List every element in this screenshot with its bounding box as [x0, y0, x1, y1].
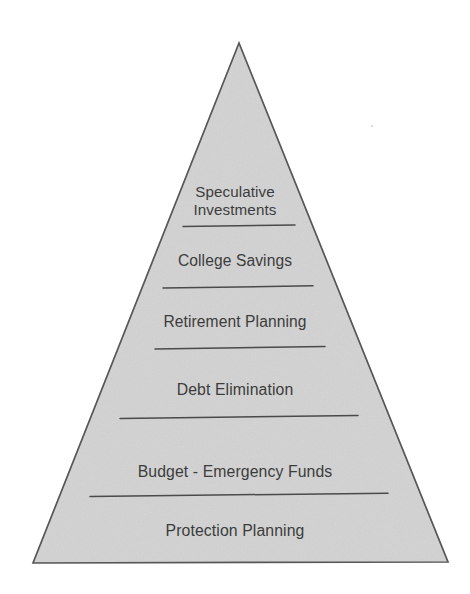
pyramid-tier-college-savings: College Savings	[0, 252, 470, 270]
scan-speck-artifact	[371, 125, 373, 127]
pyramid-svg	[0, 0, 470, 594]
pyramid-tier-debt-elimination: Debt Elimination	[0, 381, 470, 400]
pyramid-tier-budget-emergency-funds: Budget - Emergency Funds	[0, 463, 470, 482]
pyramid-tier-protection-planning: Protection Planning	[0, 522, 470, 541]
pyramid-tier-speculative-investments: Speculative Investments	[0, 183, 470, 219]
pyramid-body-grain	[33, 43, 448, 563]
pyramid-diagram: Speculative Investments College Savings …	[0, 0, 470, 594]
pyramid-tier-retirement-planning: Retirement Planning	[0, 313, 470, 331]
